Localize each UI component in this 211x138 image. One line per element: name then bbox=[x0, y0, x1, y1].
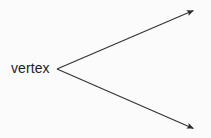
vertex-label: vertex bbox=[11, 61, 50, 75]
angle-diagram: vertex bbox=[0, 0, 211, 138]
upper-ray bbox=[57, 11, 193, 69]
lower-ray bbox=[57, 69, 193, 128]
